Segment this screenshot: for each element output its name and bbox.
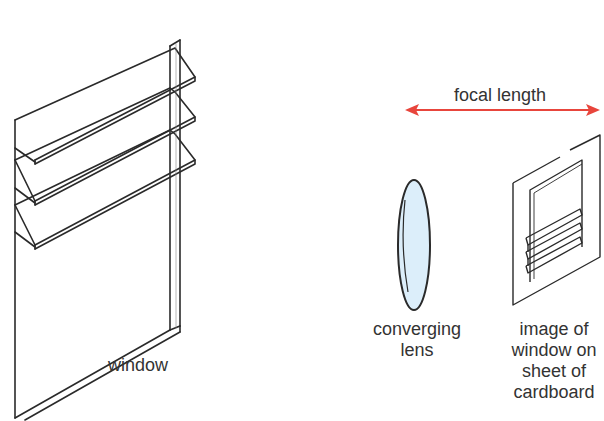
image-label-line-1: image of — [495, 319, 604, 340]
lens-label-line-2: lens — [358, 340, 476, 361]
converging-lens — [398, 180, 430, 310]
cardboard-sheet — [513, 135, 600, 305]
window-slat-2 — [15, 88, 195, 205]
image-label: image of window on sheet of cardboard — [495, 319, 604, 403]
lens-label: converging lens — [358, 319, 476, 361]
cardboard-image-window — [526, 160, 582, 282]
window-label: window — [108, 355, 168, 376]
image-label-line-2: window on — [495, 340, 604, 361]
image-label-line-3: sheet of — [495, 361, 604, 382]
lens-label-line-1: converging — [358, 319, 476, 340]
focal-length-label: focal length — [420, 85, 580, 106]
image-label-line-4: cardboard — [495, 382, 604, 403]
